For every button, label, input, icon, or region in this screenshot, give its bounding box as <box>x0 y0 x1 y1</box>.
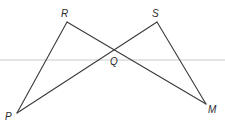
labels-group: RSQPM <box>5 8 217 122</box>
geometry-diagram: RSQPM <box>0 0 225 126</box>
segment-rm <box>67 22 206 104</box>
point-label-m: M <box>208 104 217 115</box>
point-label-p: P <box>5 111 12 122</box>
segment-pr <box>17 22 67 113</box>
point-label-q: Q <box>110 56 118 67</box>
segments-group <box>17 22 206 113</box>
segment-ps <box>17 22 157 113</box>
point-label-s: S <box>152 8 159 19</box>
point-label-r: R <box>61 8 68 19</box>
segment-sm <box>157 22 206 104</box>
